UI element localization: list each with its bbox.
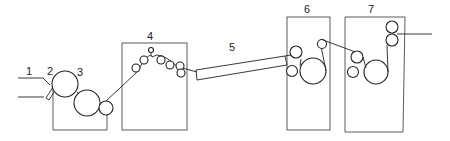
drying-channel: [196, 56, 287, 80]
web-inlet-line-top-bend: [43, 78, 50, 85]
station-4: [122, 43, 197, 130]
label-1: 1: [26, 66, 32, 77]
label-5: 5: [229, 42, 235, 53]
roll-6b: [287, 66, 298, 77]
roll-6a: [290, 46, 302, 58]
label-4: 4: [147, 31, 153, 42]
roll-large-2: [74, 90, 100, 116]
roll-7-large: [364, 60, 388, 84]
roll-small: [99, 101, 113, 115]
roll-6-large: [300, 58, 326, 84]
web-to-station-4: [106, 73, 136, 101]
station-6: [285, 17, 358, 130]
web-to-station-7: [323, 40, 358, 53]
roll-7a: [351, 51, 363, 63]
diagram-canvas: 1 2 3 4 5 6 7: [0, 0, 450, 141]
process-diagram: [0, 0, 450, 141]
label-3: 3: [77, 67, 83, 78]
station-7: [345, 17, 432, 132]
roll-7b: [348, 67, 359, 78]
roll-4b: [140, 56, 148, 64]
station-1-3: [18, 71, 136, 130]
roll-4a: [132, 64, 140, 72]
roll-7-top-1: [386, 21, 398, 33]
roll-4c: [157, 56, 165, 64]
web-6-down: [300, 59, 301, 66]
unit-frame-4: [122, 43, 187, 130]
roll-4f: [177, 69, 185, 77]
label-7: 7: [368, 4, 374, 15]
label-6: 6: [304, 4, 310, 15]
web-7-down: [363, 57, 366, 68]
roll-large-1: [52, 71, 78, 97]
label-2: 2: [47, 66, 53, 77]
roll-7-top-2: [386, 34, 398, 46]
station-5: [196, 56, 287, 80]
roll-4d: [166, 61, 174, 69]
roll-4-top: [149, 48, 154, 53]
